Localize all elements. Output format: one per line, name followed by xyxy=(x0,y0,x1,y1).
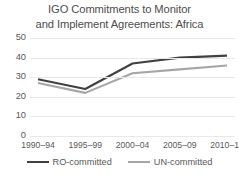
gridline xyxy=(30,38,235,39)
y-axis-tick-label: 20 xyxy=(16,92,26,101)
x-axis-tick-label: 2010–14 xyxy=(210,140,239,150)
series-layer xyxy=(30,38,235,136)
legend-label: RO-committed xyxy=(53,157,112,167)
chart-title: IGO Commitments to Monitor and Implement… xyxy=(0,2,239,31)
legend-line-swatch xyxy=(27,161,49,163)
x-axis-tick-label: 2000–04 xyxy=(116,140,149,150)
legend-item[interactable]: RO-committed xyxy=(27,157,112,167)
series-line xyxy=(38,65,227,92)
plot-area xyxy=(30,38,235,136)
gridline xyxy=(30,136,235,137)
gridline xyxy=(30,58,235,59)
y-axis-tick-label: 40 xyxy=(16,53,26,62)
y-axis-tick-label: 50 xyxy=(16,33,26,42)
x-axis-tick-label: 2005–09 xyxy=(163,140,196,150)
y-axis-tick-label: 30 xyxy=(16,73,26,82)
x-axis: 1990–941995–992000–042005–092010–14 xyxy=(30,140,235,152)
chart-title-line-2: and Implement Agreements: Africa xyxy=(0,17,239,32)
legend-line-swatch xyxy=(128,161,150,163)
y-axis: 01020304050 xyxy=(0,38,30,136)
gridline xyxy=(30,116,235,117)
chart-title-line-1: IGO Commitments to Monitor xyxy=(0,2,239,17)
line-chart: IGO Commitments to Monitor and Implement… xyxy=(0,0,239,175)
chart-legend: RO-committedUN-committed xyxy=(0,157,239,167)
plot-wrapper: 01020304050 xyxy=(0,38,239,136)
y-axis-tick-label: 10 xyxy=(16,112,26,121)
gridline xyxy=(30,97,235,98)
x-axis-tick-label: 1995–99 xyxy=(69,140,102,150)
legend-label: UN-committed xyxy=(154,157,213,167)
gridline xyxy=(30,77,235,78)
x-axis-tick-label: 1990–94 xyxy=(21,140,54,150)
legend-item[interactable]: UN-committed xyxy=(128,157,213,167)
